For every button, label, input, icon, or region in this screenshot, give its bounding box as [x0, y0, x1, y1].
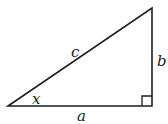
base-label: a: [77, 107, 86, 124]
triangle-outline: [8, 8, 152, 106]
height-label: b: [157, 52, 167, 70]
hypotenuse-label: c: [71, 43, 80, 61]
angle-label: x: [32, 90, 41, 108]
right-angle-marker: [142, 96, 152, 106]
right-triangle-diagram: c a b x: [0, 0, 168, 124]
